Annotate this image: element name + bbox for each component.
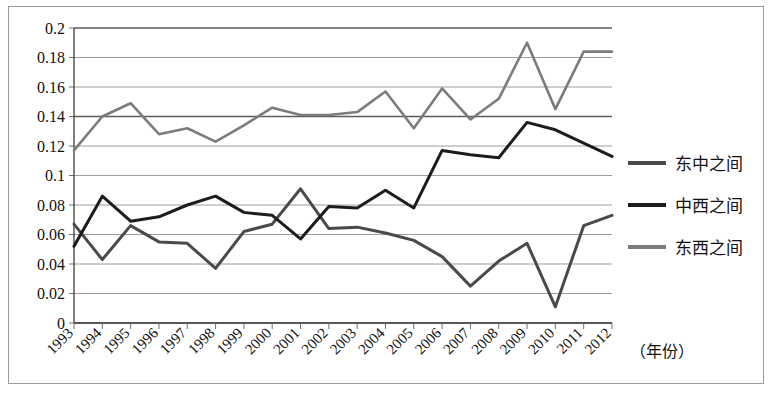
x-tick-label: 2002: [298, 325, 331, 358]
y-tick-label: 0.1: [45, 167, 65, 184]
legend-label-1: 中西之间: [675, 197, 743, 216]
x-tick-label: 2004: [355, 324, 388, 357]
x-axis-caption: （年份）: [630, 343, 694, 360]
y-tick-label: 0.06: [37, 226, 65, 243]
legend-label-0: 东中之间: [675, 155, 743, 174]
y-tick-label: 0.14: [37, 108, 65, 125]
x-tick-label: 1995: [100, 325, 133, 358]
x-tick-label: 2012: [582, 325, 615, 358]
x-tick-label: 2009: [497, 325, 530, 358]
legend-label-2: 东西之间: [675, 239, 743, 258]
x-tick-label: 2008: [468, 325, 501, 358]
x-tick-label: 2010: [525, 325, 558, 358]
chart-figure: 00.020.040.060.080.10.120.140.160.180.21…: [0, 0, 780, 400]
y-tick-label: 0.12: [37, 138, 65, 155]
y-tick-label: 0.02: [37, 285, 65, 302]
y-tick-label: 0.16: [37, 79, 65, 96]
x-tick-label: 1996: [129, 324, 162, 357]
x-tick-label: 1999: [213, 325, 246, 358]
x-tick-label: 1998: [185, 325, 218, 358]
y-tick-label: 0.18: [37, 49, 65, 66]
y-tick-label: 0.08: [37, 197, 65, 214]
y-tick-label: 0.2: [45, 20, 65, 37]
x-tick-label: 2000: [242, 325, 275, 358]
y-tick-label: 0.04: [37, 256, 65, 273]
line-chart: 00.020.040.060.080.10.120.140.160.180.21…: [0, 0, 780, 400]
x-tick-label: 2005: [383, 325, 416, 358]
x-tick-label: 1994: [72, 324, 105, 357]
x-tick-label: 2007: [440, 324, 473, 357]
x-tick-label: 2006: [412, 324, 445, 357]
x-tick-label: 2011: [554, 325, 586, 357]
x-tick-label: 1993: [44, 325, 77, 358]
x-tick-label: 1997: [157, 324, 190, 357]
x-tick-label: 2001: [270, 325, 303, 358]
series-line-2: [74, 43, 612, 151]
x-tick-label: 2003: [327, 325, 360, 358]
